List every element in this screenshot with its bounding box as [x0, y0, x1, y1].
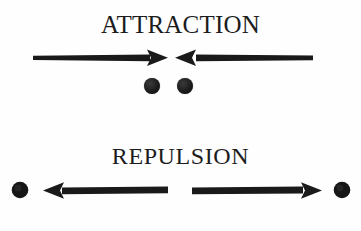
attraction-particles-row	[0, 74, 361, 100]
repulsion-arrows-svg	[0, 178, 361, 204]
attraction-label: ATTRACTION	[0, 11, 361, 38]
attraction-left-particle-icon	[144, 78, 160, 94]
repulsion-right-arrow-icon	[192, 182, 322, 199]
repulsion-left-particle-icon	[12, 182, 29, 199]
attraction-right-particle-icon	[177, 78, 193, 94]
attraction-left-arrow-icon	[33, 49, 168, 66]
repulsion-left-arrow-icon	[43, 182, 168, 199]
repulsion-label: REPULSION	[0, 143, 361, 169]
repulsion-arrows-row	[0, 178, 361, 204]
repulsion-right-particle-icon	[334, 182, 351, 199]
attraction-repulsion-figure: ATTRACTION REPULSION	[0, 0, 361, 231]
attraction-arrows-svg	[0, 46, 361, 70]
attraction-arrows-row	[0, 46, 361, 70]
attraction-right-arrow-icon	[175, 49, 313, 66]
